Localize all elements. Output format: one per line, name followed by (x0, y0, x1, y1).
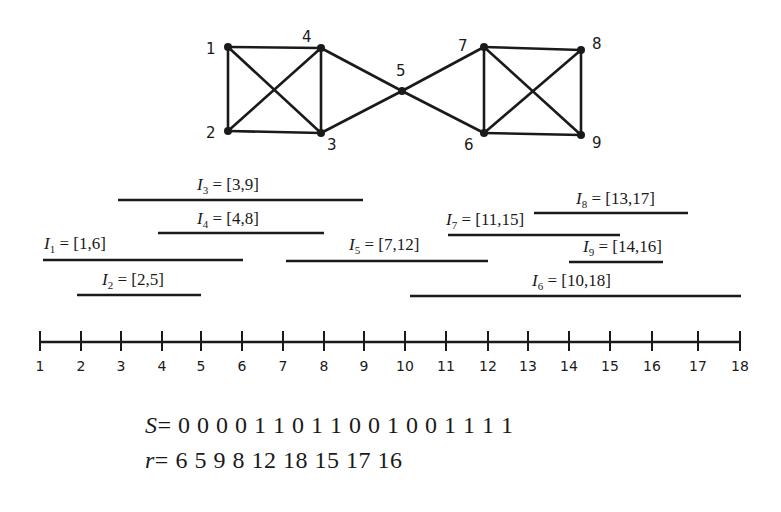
graph-node-label-4: 4 (302, 28, 312, 46)
sequence-r: r= 6 5 9 8 12 18 15 17 16 (145, 447, 402, 474)
axis-tick-label-5: 5 (197, 358, 206, 374)
axis-tick-label-14: 14 (560, 358, 578, 374)
interval-label-1: I1 = [1,6] (43, 234, 106, 255)
axis-tick-label-12: 12 (479, 358, 497, 374)
sequence-r-values: = 6 5 9 8 12 18 15 17 16 (155, 447, 403, 473)
axis-tick-label-3: 3 (117, 358, 126, 374)
axis-tick-label-6: 6 (238, 358, 247, 374)
graph-node-label-6: 6 (464, 136, 474, 154)
interval-label-4: I4 = [4,8] (196, 209, 259, 230)
axis-tick-label-4: 4 (158, 358, 167, 374)
graph-node-2 (224, 127, 232, 135)
axis-tick-label-18: 18 (731, 358, 749, 374)
axis-tick-label-1: 1 (36, 358, 45, 374)
graph-edge-7-8 (484, 47, 581, 50)
interval-label-3: I3 = [3,9] (196, 175, 259, 196)
graph-node-4 (317, 44, 325, 52)
graph-node-label-1: 1 (206, 40, 216, 58)
interval-label-9: I9 = [14,16] (582, 237, 662, 258)
graph-node-label-9: 9 (592, 134, 602, 152)
sequence-r-variable: r (145, 447, 155, 473)
sequence-s-values: = 0 0 0 0 1 1 0 1 1 0 0 1 0 0 1 1 1 1 (158, 412, 514, 438)
interval-label-6: I6 = [10,18] (531, 271, 611, 292)
graph-node-label-3: 3 (327, 136, 337, 154)
graph-edge-5-7 (402, 47, 484, 91)
graph-edge-4-5 (321, 48, 402, 91)
interval-label-8: I8 = [13,17] (575, 189, 655, 210)
sequence-s: S= 0 0 0 0 1 1 0 1 1 0 0 1 0 0 1 1 1 1 (145, 412, 514, 439)
interval-label-7: I7 = [11,15] (445, 210, 524, 231)
graph-node-5 (398, 87, 406, 95)
graph-node-8 (577, 46, 585, 54)
graph-node-label-8: 8 (592, 35, 602, 53)
axis-tick-label-2: 2 (77, 358, 86, 374)
graph-edge-6-9 (484, 133, 581, 135)
interval-label-5: I5 = [7,12] (348, 235, 419, 256)
graph-node-1 (224, 43, 232, 51)
axis-tick-label-8: 8 (320, 358, 329, 374)
graph-edge-1-4 (228, 47, 321, 48)
graph-node-3 (317, 129, 325, 137)
axis-tick-label-16: 16 (643, 358, 661, 374)
graph-node-6 (480, 129, 488, 137)
graph-node-7 (480, 43, 488, 51)
number-line-axis: 123456789101112131415161718 (36, 331, 749, 374)
graph-node-9 (577, 131, 585, 139)
axis-tick-label-9: 9 (360, 358, 369, 374)
axis-tick-label-15: 15 (601, 358, 619, 374)
axis-tick-label-17: 17 (689, 358, 707, 374)
graph-edge-5-6 (402, 91, 484, 133)
graph-node-label-2: 2 (206, 124, 216, 142)
graph-edge-3-5 (321, 91, 402, 133)
interval-label-2: I2 = [2,5] (101, 270, 164, 291)
graph-edge-2-3 (228, 131, 321, 133)
axis-tick-label-13: 13 (519, 358, 537, 374)
axis-tick-label-11: 11 (437, 358, 455, 374)
axis-tick-label-7: 7 (279, 358, 288, 374)
graph-node-label-7: 7 (458, 37, 468, 55)
axis-tick-label-10: 10 (396, 358, 414, 374)
interval-set: I1 = [1,6]I2 = [2,5]I3 = [3,9]I4 = [4,8]… (43, 175, 741, 296)
graph-node-label-5: 5 (396, 62, 406, 80)
sequence-s-variable: S (145, 412, 158, 438)
